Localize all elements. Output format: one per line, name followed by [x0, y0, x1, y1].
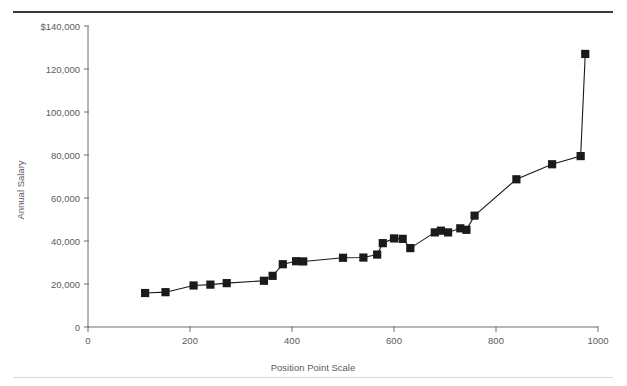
y-tick-label: 60,000: [51, 193, 80, 204]
x-axis-title: Position Point Scale: [271, 362, 356, 373]
scatter-line-plot: 020,00040,00060,00080,000100,000120,000$…: [0, 0, 627, 386]
chart-figure: 020,00040,00060,00080,000100,000120,000$…: [0, 0, 627, 386]
y-tick-label: 100,000: [46, 107, 80, 118]
data-series: [141, 50, 589, 297]
x-tick-label: 1000: [587, 335, 608, 346]
y-axis-title: Annual Salary: [15, 160, 26, 219]
data-point-marker: [577, 152, 585, 160]
data-point-marker: [373, 250, 381, 258]
y-axis: 020,00040,00060,00080,000100,000120,000$…: [40, 21, 89, 333]
data-point-marker: [223, 279, 231, 287]
y-tick-label: 0: [75, 322, 80, 333]
plot-area: 020,00040,00060,00080,000100,000120,000$…: [0, 0, 627, 386]
y-tick-label: $140,000: [40, 21, 80, 32]
data-point-marker: [399, 235, 407, 243]
x-tick-label: 200: [182, 335, 198, 346]
data-point-marker: [260, 277, 268, 285]
y-tick-label: 120,000: [46, 64, 80, 75]
data-point-marker: [269, 272, 277, 280]
x-tick-label: 400: [284, 335, 300, 346]
x-tick-label: 0: [85, 335, 90, 346]
data-point-marker: [512, 175, 520, 183]
x-tick-label: 600: [386, 335, 402, 346]
data-point-marker: [292, 257, 300, 265]
data-point-marker: [437, 227, 445, 235]
data-point-marker: [359, 253, 367, 261]
y-tick-label: 40,000: [51, 236, 80, 247]
data-point-marker: [206, 281, 214, 289]
data-point-marker: [141, 289, 149, 297]
data-point-marker: [299, 257, 307, 265]
y-tick-label: 80,000: [51, 150, 80, 161]
x-tick-label: 800: [488, 335, 504, 346]
data-point-marker: [339, 254, 347, 262]
x-axis: 02004006008001000: [85, 326, 608, 346]
data-point-marker: [406, 244, 414, 252]
data-point-marker: [444, 228, 452, 236]
y-tick-label: 20,000: [51, 279, 80, 290]
data-point-marker: [161, 288, 169, 296]
data-point-marker: [379, 239, 387, 247]
data-point-marker: [390, 234, 398, 242]
data-point-marker: [470, 212, 478, 220]
data-point-marker: [279, 260, 287, 268]
data-point-marker: [581, 50, 589, 58]
data-point-marker: [462, 226, 470, 234]
data-point-marker: [189, 281, 197, 289]
data-point-marker: [548, 160, 556, 168]
